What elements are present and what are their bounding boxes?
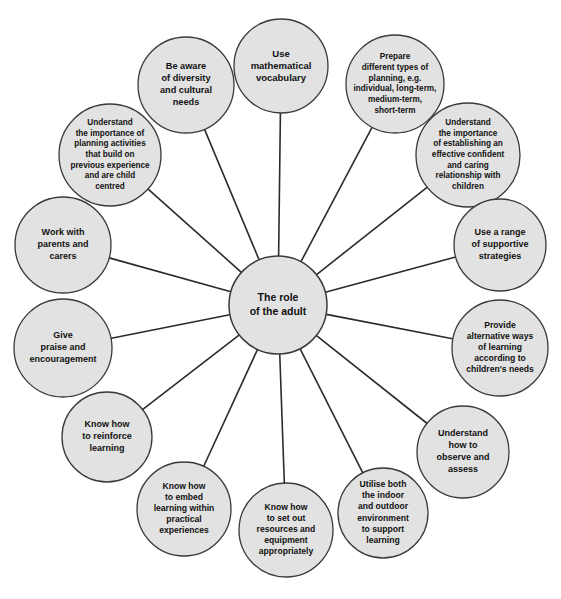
node-circle-provide-alternative-ways-of-learning <box>452 300 548 396</box>
node-circle-know-how-to-embed-learning <box>137 462 231 556</box>
node-circle-understand-importance-of-establishing-relationship <box>416 103 520 207</box>
node-prepare-different-types-of-planning[interactable]: Preparedifferent types ofplanning, e.g.i… <box>346 35 444 133</box>
node-circle-give-praise-and-encouragement <box>14 299 112 397</box>
node-know-how-to-embed-learning[interactable]: Know howto embedlearning withinpractical… <box>137 462 231 556</box>
node-use-a-range-of-supportive-strategies[interactable]: Use a rangeof supportivestrategies <box>454 199 546 291</box>
node-circle-know-how-to-set-out-resources <box>239 483 333 577</box>
node-use-mathematical-vocabulary[interactable]: Usemathematicalvocabulary <box>234 19 328 113</box>
node-circle-prepare-different-types-of-planning <box>346 35 444 133</box>
connector-line-know-how-to-embed-learning <box>203 349 258 468</box>
node-utilise-both-indoor-and-outdoor-environment[interactable]: Utilise boththe indoorand outdoorenviron… <box>338 468 428 558</box>
node-know-how-to-reinforce-learning[interactable]: Know howto reinforcelearning <box>62 392 152 482</box>
node-circle-be-aware-of-diversity-and-cultural-needs <box>138 37 234 133</box>
node-know-how-to-set-out-resources[interactable]: Know howto set outresources andequipment… <box>239 483 333 577</box>
connector-line-provide-alternative-ways-of-learning <box>325 314 454 339</box>
connector-line-work-with-parents-and-carers <box>108 258 232 292</box>
node-circle-utilise-both-indoor-and-outdoor-environment <box>338 468 428 558</box>
node-provide-alternative-ways-of-learning[interactable]: Providealternative waysof learningaccord… <box>452 300 548 396</box>
node-circle-use-mathematical-vocabulary <box>234 19 328 113</box>
node-be-aware-of-diversity-and-cultural-needs[interactable]: Be awareof diversityand culturalneeds <box>138 37 234 133</box>
connector-line-use-mathematical-vocabulary <box>279 112 281 257</box>
mind-map-canvas: UsemathematicalvocabularyPreparedifferen… <box>0 0 561 599</box>
connector-line-use-a-range-of-supportive-strategies <box>324 257 456 293</box>
node-work-with-parents-and-carers[interactable]: Work withparents andcarers <box>15 197 111 293</box>
node-circle-know-how-to-reinforce-learning <box>62 392 152 482</box>
node-understand-how-to-observe-and-assess[interactable]: Understandhow toobserve andassess <box>417 406 509 498</box>
connector-line-be-aware-of-diversity-and-cultural-needs <box>204 128 259 260</box>
connector-line-know-how-to-set-out-resources <box>280 353 285 484</box>
connector-line-understand-how-to-observe-and-assess <box>316 335 428 424</box>
connector-line-understand-importance-of-establishing-relationship <box>316 187 428 276</box>
connector-line-prepare-different-types-of-planning <box>300 126 372 262</box>
node-circle-understand-how-to-observe-and-assess <box>417 406 509 498</box>
node-circle-understand-importance-of-planning-activities <box>59 104 161 206</box>
connector-line-give-praise-and-encouragement <box>110 314 231 338</box>
connector-line-utilise-both-indoor-and-outdoor-environment <box>300 348 364 474</box>
connector-line-know-how-to-reinforce-learning <box>142 334 240 410</box>
center-node-circle <box>229 256 327 354</box>
node-circle-work-with-parents-and-carers <box>15 197 111 293</box>
node-understand-importance-of-establishing-relationship[interactable]: Understandthe importanceof establishing … <box>416 103 520 207</box>
node-give-praise-and-encouragement[interactable]: Givepraise andencouragement <box>14 299 112 397</box>
mind-map-diagram: UsemathematicalvocabularyPreparedifferen… <box>0 0 561 599</box>
center-node-group: The roleof the adult <box>229 256 327 354</box>
center-node[interactable]: The roleof the adult <box>229 256 327 354</box>
node-understand-importance-of-planning-activities[interactable]: Understandthe importance ofplanning acti… <box>59 104 161 206</box>
node-circle-use-a-range-of-supportive-strategies <box>454 199 546 291</box>
connector-line-understand-importance-of-planning-activities <box>147 188 242 273</box>
